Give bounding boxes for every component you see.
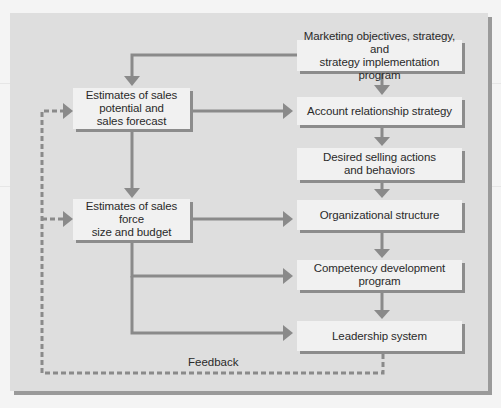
- arrowhead-right-icon: [283, 268, 293, 284]
- arrowhead-right-icon: [283, 211, 293, 227]
- node-label: Estimates of sales force size and budget: [77, 200, 186, 239]
- node-label: Competency development program: [301, 262, 458, 288]
- node-label: Account relationship strategy: [307, 105, 452, 118]
- node-label: Marketing objectives, strategy, and stra…: [301, 30, 458, 82]
- feedback-arrowhead-icon: [63, 103, 73, 119]
- node-leadership-system: Leadership system: [297, 321, 462, 351]
- arrow-sales-force-to-leadership: [132, 276, 284, 333]
- node-competency-development: Competency development program: [297, 260, 462, 290]
- node-organizational-structure: Organizational structure: [297, 200, 462, 230]
- arrowhead-down-icon: [374, 310, 390, 319]
- node-desired-selling-actions: Desired selling actions and behaviors: [297, 148, 462, 180]
- arrowhead-down-icon: [374, 189, 390, 198]
- node-sales-potential-forecast: Estimates of sales potential and sales f…: [73, 88, 190, 129]
- arrow-marketing-to-sales-potential: [132, 55, 297, 76]
- arrowhead-right-icon: [283, 325, 293, 341]
- arrowhead-down-icon: [124, 76, 140, 86]
- node-label: Desired selling actions and behaviors: [323, 151, 436, 177]
- feedback-label: Feedback: [188, 356, 239, 368]
- feedback-arrowhead-icon: [63, 211, 73, 227]
- node-account-relationship-strategy: Account relationship strategy: [297, 97, 462, 125]
- arrowhead-down-icon: [374, 249, 390, 258]
- arrowhead-down-icon: [374, 137, 390, 146]
- node-label: Leadership system: [332, 330, 427, 343]
- node-label: Estimates of sales potential and sales f…: [86, 89, 178, 128]
- arrowhead-right-icon: [283, 103, 293, 119]
- arrowhead-down-icon: [374, 85, 390, 95]
- arrowhead-down-icon: [124, 188, 140, 198]
- node-marketing-objectives: Marketing objectives, strategy, and stra…: [297, 40, 462, 71]
- arrow-sales-force-to-competency: [132, 243, 284, 276]
- node-sales-force-budget: Estimates of sales force size and budget: [73, 199, 190, 240]
- node-label: Organizational structure: [320, 209, 440, 222]
